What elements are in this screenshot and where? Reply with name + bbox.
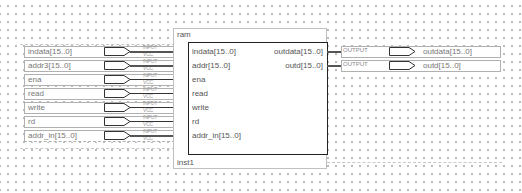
pin-default: VCC (143, 80, 153, 85)
pin-type: OUTPUT (343, 47, 368, 53)
pin-label: outdata[15..0] (423, 47, 472, 57)
pin-label: indata[15..0] (28, 47, 72, 57)
pin-label: ena (28, 75, 41, 85)
pin-default: VCC (143, 108, 153, 113)
pin-label: addr_in[15..0] (28, 131, 77, 141)
input-arrow-icon (104, 131, 132, 140)
pin-type: INPUT (143, 87, 157, 92)
input-arrow-icon (104, 89, 132, 98)
port-read: read (192, 89, 208, 99)
pin-default: VCC (143, 122, 153, 127)
frame-line (327, 162, 502, 163)
block-name: ram (177, 30, 191, 40)
pin-label: outd[15..0] (423, 61, 461, 71)
port-addr-in: addr_in[15..0] (192, 131, 241, 141)
output-arrow-icon (389, 61, 417, 70)
pin-label: write (28, 103, 45, 113)
pin-type: INPUT (143, 73, 157, 78)
frame-line (20, 148, 175, 149)
input-arrow-icon (104, 61, 132, 70)
pin-type: INPUT (143, 59, 157, 64)
port-write: write (192, 103, 209, 113)
output-arrow-icon (389, 47, 417, 56)
port-outdata: outdata[15..0] (265, 47, 323, 57)
pin-type: INPUT (143, 129, 157, 134)
port-addr: addr[15..0] (192, 61, 230, 71)
pin-label: read (28, 89, 44, 99)
pin-type: INPUT (143, 101, 157, 106)
pin-label: rd (28, 117, 35, 127)
pin-type: INPUT (143, 45, 157, 50)
pin-label: addr3[15..0] (28, 61, 71, 71)
pin-type: INPUT (143, 115, 157, 120)
instance-name: inst1 (177, 158, 194, 168)
input-arrow-icon (104, 47, 132, 56)
port-indata: indata[15..0] (192, 47, 236, 57)
input-arrow-icon (104, 117, 132, 126)
pin-default: VCC (143, 94, 153, 99)
port-ena: ena (192, 75, 205, 85)
input-arrow-icon (104, 103, 132, 112)
port-rd: rd (192, 117, 199, 127)
pin-type: OUTPUT (343, 61, 368, 67)
input-arrow-icon (104, 75, 132, 84)
port-outd: outd[15..0] (265, 61, 323, 71)
